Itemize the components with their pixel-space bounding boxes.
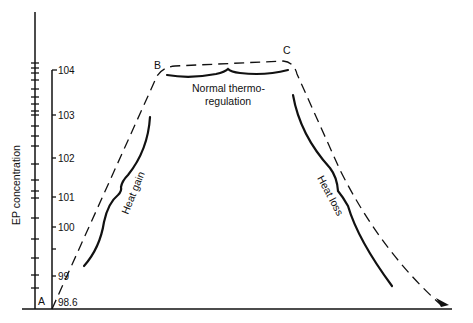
normal-thermoregulation-label-line1: Normal thermo-: [192, 82, 265, 94]
heat-loss-brace: [293, 95, 392, 286]
tick-label-104: 104: [58, 65, 75, 76]
tick-label-101: 101: [58, 192, 75, 203]
tick-label-103: 103: [58, 110, 75, 121]
normal-thermoregulation-label-line2: regulation: [205, 95, 251, 107]
point-b-label: B: [154, 59, 161, 71]
ep-concentration-axis: [31, 12, 39, 309]
heat-gain-label: Heat gain: [119, 169, 147, 215]
point-c-label: C: [283, 44, 291, 56]
fever-phases-diagram: 104 103 102 101 100 99 98.6 EP concentra…: [0, 0, 473, 323]
tick-label-100: 100: [58, 222, 75, 233]
temperature-axis: 104 103 102 101 100 99 98.6: [52, 65, 78, 309]
tick-label-98-6: 98.6: [58, 297, 78, 308]
heat-gain-brace: [84, 117, 150, 266]
y-axis-label: EP concentration: [10, 145, 22, 225]
tick-label-102: 102: [58, 153, 75, 164]
point-a-label: A: [38, 295, 45, 307]
normal-thermoregulation-brace: [167, 69, 288, 77]
